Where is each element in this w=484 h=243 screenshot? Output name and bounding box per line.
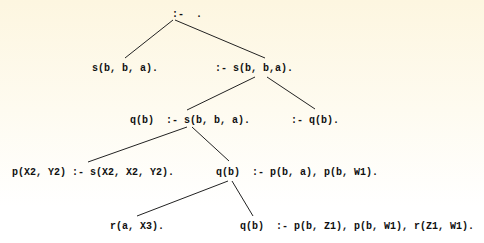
edge-q-rule2-to-r-fact (137, 181, 228, 216)
edge-q-rule-to-q-rule2 (192, 127, 229, 161)
node-rule-q-b-pr: q(b) :- p(b, Z1), p(b, W1), r(Z1, W1). (240, 221, 474, 233)
node-root-empty-clause: :- . (172, 9, 202, 21)
node-fact-r-a-x3: r(a, X3). (110, 221, 164, 233)
edge-q-rule-to-p-rule (88, 127, 187, 162)
edge-goal-to-q-rule (187, 77, 255, 110)
node-fact-s-b-b-a: s(b, b, a). (92, 63, 158, 75)
edge-root-to-goal (175, 20, 265, 58)
node-goal-s-b-b-a: :- s(b, b,a). (215, 63, 293, 75)
node-goal-q-b: :- q(b). (291, 115, 339, 127)
edge-q-rule2-to-q-rule3 (232, 181, 253, 216)
node-rule-q-b-p: q(b) :- p(b, a), p(b, W1). (216, 167, 378, 179)
edge-goal-to-q-goal (267, 77, 315, 109)
node-rule-p-x2-y2: p(X2, Y2) :- s(X2, X2, Y2). (12, 167, 174, 179)
node-rule-q-b: q(b) :- s(b, b, a). (130, 115, 250, 127)
edge-root-to-fact (125, 20, 173, 58)
